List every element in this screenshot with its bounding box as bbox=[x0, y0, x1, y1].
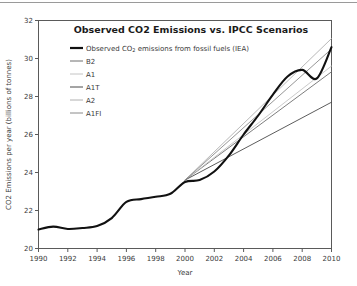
legend-label-a1: A1 bbox=[86, 71, 95, 79]
x-axis-title: Year bbox=[177, 269, 193, 277]
y-axis-tick-label: 24 bbox=[24, 169, 33, 177]
x-axis-tick-label: 2000 bbox=[176, 255, 194, 263]
x-axis-tick-label: 1996 bbox=[117, 255, 135, 263]
x-axis-tick-label: 1990 bbox=[30, 255, 48, 263]
legend-label-observed: Observed CO2 emissions from fossil fuels… bbox=[86, 45, 249, 54]
x-axis-tick-label: 2002 bbox=[205, 255, 223, 263]
legend-label-a1t: A1T bbox=[86, 84, 100, 92]
y-axis-tick-label: 30 bbox=[24, 55, 33, 63]
y-axis-tick-label: 22 bbox=[24, 207, 33, 215]
x-axis-tick-label: 2008 bbox=[293, 255, 311, 263]
y-axis-title: CO2 Emissions per year (billions of tonn… bbox=[5, 59, 13, 210]
y-axis-tick-label: 20 bbox=[24, 245, 33, 253]
scenario-line-b2 bbox=[185, 72, 332, 180]
chart-title: Observed CO2 Emissions vs. IPCC Scenario… bbox=[74, 24, 309, 35]
legend-label-a1fi: A1FI bbox=[86, 110, 101, 118]
scenario-line-a2 bbox=[185, 39, 332, 181]
plot-frame bbox=[39, 21, 332, 249]
x-axis-tick-label: 2010 bbox=[323, 255, 341, 263]
x-axis-tick-label: 2004 bbox=[235, 255, 253, 263]
x-axis-tick-label: 1994 bbox=[88, 255, 106, 263]
legend-label-a2: A2 bbox=[86, 97, 95, 105]
co2-emissions-line-chart: 2022242628303219901992199419961998200020… bbox=[0, 0, 357, 286]
scenario-line-a1 bbox=[185, 66, 332, 180]
y-axis-tick-label: 28 bbox=[24, 93, 33, 101]
plot-area: 2022242628303219901992199419961998200020… bbox=[5, 17, 340, 276]
x-axis-tick-label: 1992 bbox=[59, 255, 77, 263]
y-axis-tick-label: 26 bbox=[24, 131, 33, 139]
chart-figure: 2022242628303219901992199419961998200020… bbox=[0, 0, 357, 286]
y-axis-tick-label: 32 bbox=[24, 17, 33, 25]
legend-label-b2: B2 bbox=[86, 58, 95, 66]
x-axis-tick-label: 1998 bbox=[147, 255, 165, 263]
x-axis-tick-label: 2006 bbox=[264, 255, 282, 263]
